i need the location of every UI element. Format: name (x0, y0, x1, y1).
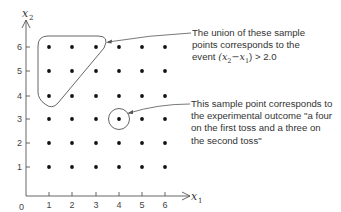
point-note-line3: on the first toss and a three on (191, 122, 332, 134)
y-tick-label: 2 (17, 138, 22, 148)
point-note-line1: This sample point corresponds to (191, 98, 332, 110)
x-tick-labels: 0 1 2 3 4 5 6 (19, 200, 168, 212)
point-note-line4: the second toss" (191, 135, 332, 147)
svg-text:1: 1 (198, 197, 202, 205)
x-tick-label: 6 (163, 200, 168, 210)
svg-text:2: 2 (29, 14, 33, 22)
x-tick-label: 5 (140, 200, 145, 210)
x-tick-label: 1 (47, 200, 52, 210)
x-tick-label: 2 (70, 200, 75, 210)
x-axis-title: x 1 (191, 190, 202, 205)
event-expression: (x2−x1 (218, 51, 249, 62)
sample-points (47, 45, 167, 169)
y-tick-label: 1 (17, 162, 22, 172)
x-tick-label: 4 (117, 200, 122, 210)
arrowhead-icon (106, 40, 112, 44)
arrowhead-icon (127, 110, 133, 114)
point-note-line2: the experimental outcome "a four (191, 110, 332, 122)
svg-text:x: x (22, 7, 29, 20)
y-tick-label: 4 (17, 91, 22, 101)
origin-label: 0 (19, 202, 24, 212)
y-tick-labels: 1 2 3 4 5 6 (17, 42, 22, 172)
region-note-line3: event (x2−x1) > 2.0 (192, 51, 305, 67)
region-annotation: The union of these sample points corresp… (192, 27, 305, 68)
region-note-line2: points corresponds to the (192, 39, 305, 51)
point-leader-line (129, 104, 190, 113)
y-tick-label: 5 (17, 66, 22, 76)
region-note-line1: The union of these sample (192, 27, 305, 39)
event-word: event (192, 51, 218, 62)
event-inequality: ) > 2.0 (249, 51, 276, 62)
y-axis-title: x 2 (22, 7, 33, 22)
svg-text:x: x (191, 190, 198, 203)
point-annotation: This sample point corresponds to the exp… (191, 98, 332, 147)
y-tick-label: 3 (17, 114, 22, 124)
region-leader-line (108, 33, 191, 42)
y-tick-label: 6 (17, 42, 22, 52)
x-tick-label: 3 (94, 200, 99, 210)
